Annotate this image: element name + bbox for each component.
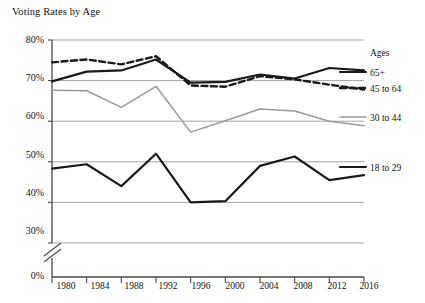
x-tick-label-2008: 2008 (294, 281, 313, 291)
legend-title: Ages (370, 48, 390, 58)
chart-container: Voting Rates by Age 80% 70% 60% 50% 40% … (0, 0, 425, 303)
series-lines (52, 56, 364, 202)
x-tick-label-1992: 1992 (159, 281, 178, 291)
series-line-45-to-64 (52, 56, 364, 89)
legend-label-65-plus: 65+ (370, 68, 385, 78)
series-line-65- (52, 59, 364, 82)
x-tick-label-1996: 1996 (192, 281, 211, 291)
series-line-30-to-44 (52, 86, 364, 132)
x-tick-label-2004: 2004 (260, 281, 279, 291)
x-tick-label-2000: 2000 (226, 281, 245, 291)
x-tick-label-2012: 2012 (328, 281, 347, 291)
legend-label-45-to-64: 45 to 64 (370, 84, 401, 94)
series-line-18-to-29 (52, 154, 364, 203)
legend-label-18-to-29: 18 to 29 (370, 163, 401, 173)
x-tick-label-1980: 1980 (57, 281, 76, 291)
x-tick-label-2016: 2016 (360, 281, 379, 291)
legend-label-30-to-44: 30 to 44 (370, 113, 401, 123)
axis-break-icon (44, 243, 61, 256)
x-tick-label-1984: 1984 (91, 281, 110, 291)
plot-area (0, 0, 425, 303)
x-tick-label-1988: 1988 (125, 281, 144, 291)
axes (44, 40, 364, 277)
